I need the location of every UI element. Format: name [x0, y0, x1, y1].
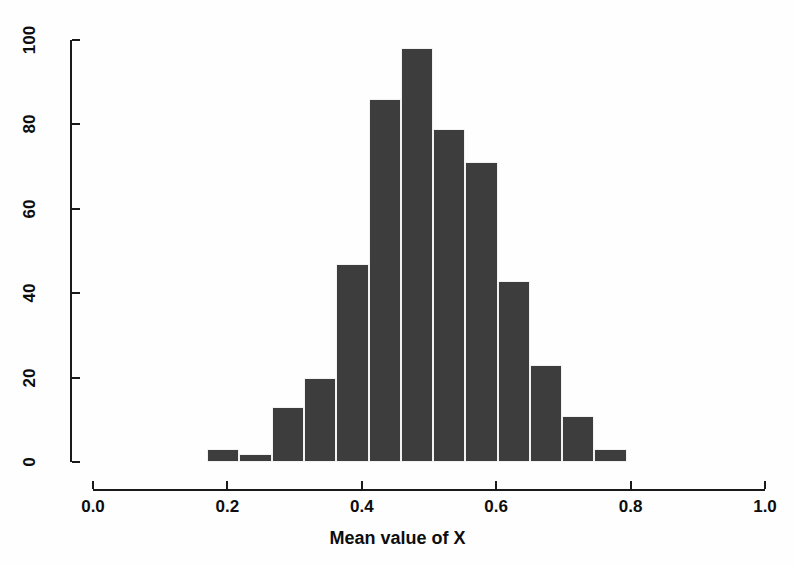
histogram-bar [465, 162, 497, 462]
x-axis-title: Mean value of X [0, 528, 795, 549]
y-axis-tick [72, 39, 80, 41]
x-axis-tick [361, 481, 363, 489]
x-axis-tick [226, 481, 228, 489]
x-axis-tick [764, 481, 766, 489]
histogram-bar [530, 365, 562, 462]
histogram-chart: 0.00.20.40.60.81.0020406080100 Mean valu… [0, 0, 795, 565]
y-axis-tick-label: 100 [20, 10, 40, 70]
histogram-bar [594, 449, 626, 462]
x-axis-tick-label: 0.6 [484, 497, 508, 517]
histogram-bar [498, 281, 530, 462]
x-axis-tick [92, 481, 94, 489]
x-axis-tick-label: 0.8 [619, 497, 643, 517]
x-axis-tick [495, 481, 497, 489]
x-axis-tick-label: 1.0 [753, 497, 777, 517]
x-axis-line [93, 489, 765, 491]
y-axis-tick-label: 0 [20, 432, 40, 492]
histogram-bar [207, 449, 239, 462]
histogram-bar [433, 129, 465, 462]
histogram-bar [272, 407, 304, 462]
x-axis-tick [630, 481, 632, 489]
histogram-bar [562, 416, 594, 462]
x-axis-tick-label: 0.2 [216, 497, 240, 517]
y-axis-title-wrapper: Number of samples [8, 100, 308, 400]
x-axis-tick-label: 0.4 [350, 497, 374, 517]
histogram-bar [401, 48, 433, 462]
histogram-bar [239, 454, 271, 462]
histogram-bar [336, 264, 368, 462]
histogram-bar [304, 378, 336, 462]
y-axis-tick [72, 461, 80, 463]
x-axis-tick-label: 0.0 [81, 497, 105, 517]
histogram-bar [369, 99, 401, 462]
